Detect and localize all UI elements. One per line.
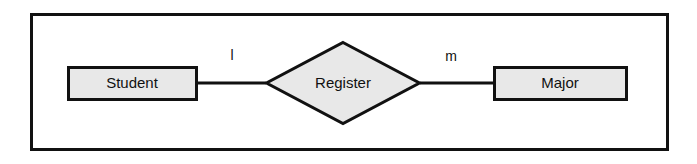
- cardinality-label-left: l: [230, 47, 233, 63]
- entity-student[interactable]: Student: [69, 68, 197, 100]
- entity-major[interactable]: Major: [495, 68, 627, 100]
- diagram-canvas: Student Register Major l m: [0, 0, 697, 164]
- entity-major-label: Major: [541, 74, 579, 91]
- er-diagram: Student Register Major l m: [0, 0, 697, 164]
- relationship-register-label: Register: [315, 74, 371, 91]
- cardinality-label-right: m: [445, 48, 457, 64]
- entity-student-label: Student: [106, 74, 159, 91]
